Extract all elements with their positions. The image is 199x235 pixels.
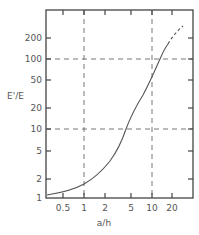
- y-tick-label: 200: [25, 33, 42, 43]
- y-tick-label: 20: [31, 103, 43, 113]
- chart: 200 100 50 20 10 5 2 1 0.5 1 2 5 10 20 E…: [0, 0, 199, 235]
- plot-frame: [46, 10, 193, 198]
- y-axis-label: E'/E: [7, 91, 24, 101]
- x-tick-label: 0.5: [56, 203, 70, 213]
- gridlines: [46, 10, 193, 198]
- x-axis-label: a/h: [97, 218, 111, 228]
- x-tick-label: 10: [146, 203, 158, 213]
- y-tick-label: 2: [36, 174, 42, 184]
- x-tick-label: 2: [102, 203, 108, 213]
- curve-solid: [47, 44, 168, 195]
- y-tick-label: 50: [31, 75, 43, 85]
- x-ticks: [63, 10, 172, 198]
- x-tick-label: 5: [128, 203, 134, 213]
- curve-dashed: [168, 26, 183, 44]
- x-tick-label: 20: [166, 203, 178, 213]
- y-tick-labels: 200 100 50 20 10 5 2 1: [25, 33, 42, 203]
- y-tick-label: 1: [36, 193, 42, 203]
- x-tick-labels: 0.5 1 2 5 10 20: [56, 203, 178, 213]
- y-tick-label: 5: [36, 146, 42, 156]
- x-tick-label: 1: [81, 203, 87, 213]
- y-tick-label: 10: [31, 124, 43, 134]
- y-tick-label: 100: [25, 54, 42, 64]
